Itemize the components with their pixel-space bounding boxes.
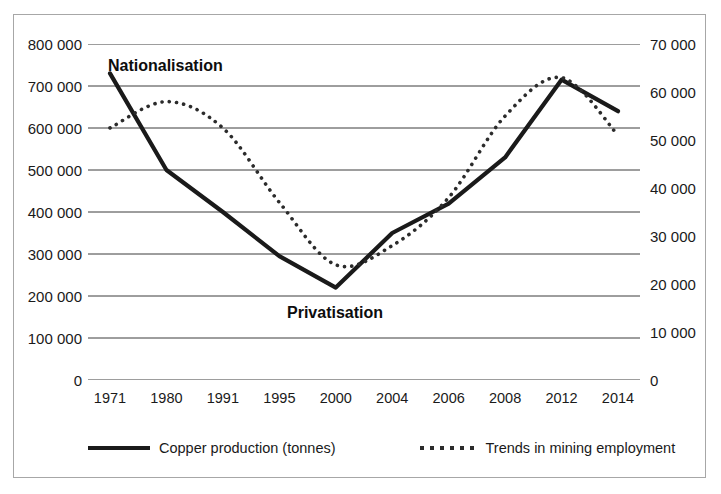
gridlines <box>88 44 640 380</box>
left-axis-tick-label: 300 000 <box>28 247 82 262</box>
right-axis-tick-label: 0 <box>650 373 658 388</box>
left-axis-tick-label: 200 000 <box>28 289 82 304</box>
left-axis-tick-label: 0 <box>74 373 82 388</box>
x-axis-tick-label: 1980 <box>150 391 182 406</box>
annotation-privatisation: Privatisation <box>287 305 383 321</box>
series-layer <box>110 73 618 287</box>
plot-area <box>88 44 640 380</box>
solid-line-swatch-icon <box>88 446 150 451</box>
left-axis-tick-label: 400 000 <box>28 205 82 220</box>
x-axis-tick-label: 2014 <box>602 391 634 406</box>
left-axis-tick-label: 100 000 <box>28 331 82 346</box>
x-axis-tick-label: 2006 <box>433 391 465 406</box>
left-axis-tick-label: 600 000 <box>28 121 82 136</box>
left-axis: 800 000700 000600 000500 000400 000300 0… <box>14 44 82 380</box>
right-axis-tick-label: 30 000 <box>650 229 696 244</box>
right-axis-tick-label: 50 000 <box>650 133 696 148</box>
legend-label-mining-employment: Trends in mining employment <box>486 441 676 456</box>
x-axis-tick-label: 1995 <box>263 391 295 406</box>
right-axis-tick-label: 10 000 <box>650 325 696 340</box>
plot-svg <box>88 44 640 380</box>
series-line-production <box>110 73 618 287</box>
right-axis-tick-label: 20 000 <box>650 277 696 292</box>
x-axis-tick-label: 1971 <box>94 391 126 406</box>
right-axis-tick-label: 40 000 <box>650 181 696 196</box>
chart-figure: 800 000700 000600 000500 000400 000300 0… <box>0 0 721 494</box>
x-axis-tick-label: 2008 <box>489 391 521 406</box>
right-axis-tick-label: 70 000 <box>650 37 696 52</box>
legend-item-copper-production[interactable]: Copper production (tonnes) <box>88 441 336 456</box>
x-axis-tick-label: 1991 <box>207 391 239 406</box>
dotted-line-swatch-icon <box>415 446 477 450</box>
x-axis-tick-label: 2012 <box>545 391 577 406</box>
left-axis-tick-label: 700 000 <box>28 79 82 94</box>
x-axis-labels: 1971198019911995200020042006200820122014 <box>88 391 640 413</box>
legend-label-copper-production: Copper production (tonnes) <box>159 441 336 456</box>
left-axis-tick-label: 800 000 <box>28 37 82 52</box>
right-axis-tick-label: 60 000 <box>650 85 696 100</box>
x-axis-tick-label: 2004 <box>376 391 408 406</box>
annotation-nationalisation: Nationalisation <box>108 58 223 74</box>
x-axis-tick-label: 2000 <box>320 391 352 406</box>
left-axis-tick-label: 500 000 <box>28 163 82 178</box>
chart-legend: Copper production (tonnes) Trends in min… <box>88 436 648 460</box>
legend-item-mining-employment[interactable]: Trends in mining employment <box>415 441 676 456</box>
right-axis: 70 00060 00050 00040 00030 00020 00010 0… <box>650 44 720 380</box>
